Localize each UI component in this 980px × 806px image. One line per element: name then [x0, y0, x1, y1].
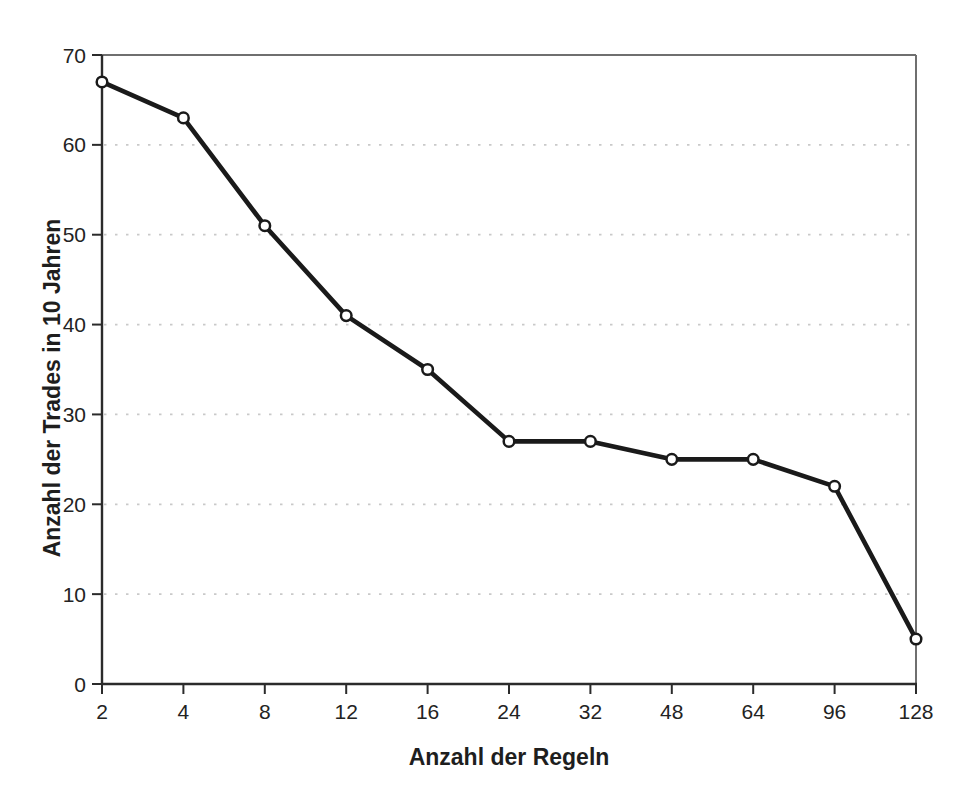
data-point-marker-2	[97, 77, 108, 88]
x-tick-label-128: 128	[898, 700, 933, 723]
data-point-marker-128	[911, 634, 922, 645]
x-tick-label-32: 32	[579, 700, 602, 723]
x-axis-title: Anzahl der Regeln	[409, 744, 610, 771]
data-point-marker-24	[504, 436, 515, 447]
data-point-marker-16	[422, 364, 433, 375]
y-tick-label-0: 0	[74, 673, 86, 696]
data-point-marker-32	[585, 436, 596, 447]
data-point-marker-4	[178, 113, 189, 124]
data-point-marker-96	[829, 481, 840, 492]
x-tick-label-4: 4	[178, 700, 190, 723]
y-axis-title: Anzahl der Trades in 10 Jahren	[39, 219, 66, 558]
x-tick-label-24: 24	[497, 700, 521, 723]
x-tick-label-96: 96	[823, 700, 846, 723]
y-tick-label-40: 40	[63, 313, 86, 336]
y-tick-label-60: 60	[63, 133, 86, 156]
x-tick-label-48: 48	[660, 700, 683, 723]
data-point-marker-64	[748, 454, 759, 465]
series-line	[102, 82, 916, 639]
figure-page: 01020304050607024812162432486496128 Anza…	[0, 0, 980, 806]
x-tick-label-16: 16	[416, 700, 439, 723]
data-point-marker-8	[260, 220, 271, 231]
x-tick-label-64: 64	[742, 700, 766, 723]
y-tick-label-70: 70	[63, 44, 86, 67]
y-tick-label-50: 50	[63, 223, 86, 246]
data-point-marker-48	[667, 454, 678, 465]
data-point-marker-12	[341, 310, 352, 321]
x-tick-label-2: 2	[96, 700, 108, 723]
x-tick-label-12: 12	[335, 700, 358, 723]
line-chart-canvas: 01020304050607024812162432486496128	[0, 0, 980, 806]
x-tick-label-8: 8	[259, 700, 271, 723]
y-tick-label-20: 20	[63, 493, 86, 516]
y-tick-label-10: 10	[63, 583, 86, 606]
y-tick-label-30: 30	[63, 403, 86, 426]
